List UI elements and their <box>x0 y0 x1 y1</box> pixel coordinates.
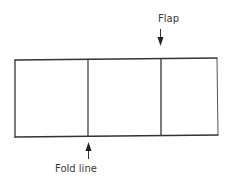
top-edge <box>15 58 217 60</box>
flap-label: Flap <box>158 13 179 24</box>
right-edge <box>217 58 218 135</box>
fold-diagram-drawing <box>0 0 228 191</box>
flap-arrow-icon <box>158 29 164 46</box>
bottom-edge <box>15 135 218 137</box>
outer-rectangle <box>15 58 218 137</box>
fold-diagram: Flap Fold line <box>0 0 228 191</box>
fold-line-label: Fold line <box>55 163 97 174</box>
fold-line-arrow-icon <box>86 142 92 159</box>
